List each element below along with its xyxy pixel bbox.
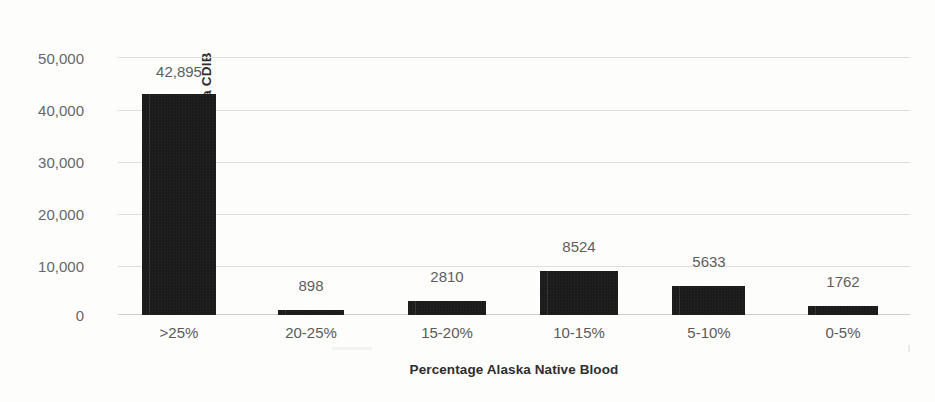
bar-seam [815, 306, 816, 315]
bar-value-label: 8524 [529, 239, 629, 254]
x-tick-label-5-10: 5-10% [659, 325, 759, 340]
bar-value-label: 1762 [793, 274, 893, 289]
bar-value-label: 898 [261, 278, 361, 293]
bar-seam [415, 301, 416, 315]
plot-area: 42,895 898 2810 8524 5633 1762 [118, 50, 910, 315]
bar-seam [679, 286, 680, 315]
bar-value-label: 42,895 [129, 64, 229, 79]
bar-0-5[interactable] [808, 306, 878, 315]
bar-seam [285, 310, 286, 315]
bar-seam [547, 271, 548, 315]
y-tick-label: 10,000 [12, 259, 84, 274]
scan-speck [332, 347, 372, 350]
y-axis-tick-labels: 50,000 40,000 30,000 20,000 10,000 0 [8, 0, 84, 402]
bar-value-label: 2810 [397, 269, 497, 284]
y-tick-label: 20,000 [12, 207, 84, 222]
bar-20-25[interactable] [278, 310, 344, 315]
x-tick-label-10-15: 10-15% [529, 325, 629, 340]
bar-seam [149, 94, 150, 315]
x-axis-title: Percentage Alaska Native Blood [118, 362, 910, 377]
chart-page: Number of Individuals Issued a CDIB 50,0… [0, 0, 935, 402]
bar-15-20[interactable] [408, 301, 486, 315]
x-tick-label-20-25: 20-25% [261, 325, 361, 340]
x-tick-label-gt-25: >25% [129, 325, 229, 340]
y-axis-title-container: Number of Individuals Issued a CDIB [88, 10, 112, 320]
x-tick-label-0-5: 0-5% [793, 325, 893, 340]
scan-speck [908, 345, 910, 352]
y-tick-label: 40,000 [12, 103, 84, 118]
y-tick-label: 30,000 [12, 155, 84, 170]
bar-10-15[interactable] [540, 271, 618, 315]
bar-5-10[interactable] [672, 286, 745, 315]
x-tick-label-15-20: 15-20% [397, 325, 497, 340]
bar-gt-25[interactable] [142, 94, 216, 315]
bar-series: 42,895 898 2810 8524 5633 1762 [118, 50, 910, 315]
x-axis-tick-labels: >25% 20-25% 15-20% 10-15% 5-10% 0-5% [118, 325, 910, 349]
y-tick-label: 0 [12, 308, 84, 323]
y-tick-label: 50,000 [12, 51, 84, 66]
bar-value-label: 5633 [659, 254, 759, 269]
